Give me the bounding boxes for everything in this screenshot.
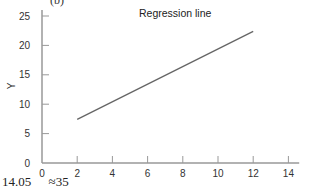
footer-value-1: 14.05	[2, 174, 31, 189]
x-tick-label: 4	[110, 168, 116, 179]
footer-values: 14.05 ≈35	[2, 174, 83, 190]
chart-title: Regression line	[139, 7, 212, 19]
x-tick-label: 6	[145, 168, 151, 179]
footer-value-2: ≈35	[49, 174, 69, 189]
panel-label: (b)	[50, 0, 64, 7]
axes: 051015202502468101214	[19, 10, 299, 179]
plot-area	[77, 31, 253, 119]
x-tick-label: 14	[283, 168, 295, 179]
x-tick-label: 12	[248, 168, 260, 179]
y-tick-label: 10	[19, 99, 31, 110]
y-tick-label: 0	[24, 158, 30, 169]
regression-chart: (b) Regression line Y 051015202502468101…	[0, 0, 310, 193]
y-tick-label: 20	[19, 40, 31, 51]
x-tick-label: 8	[180, 168, 186, 179]
y-axis-label: Y	[6, 82, 17, 89]
regression-line	[77, 31, 253, 119]
y-tick-label: 15	[19, 69, 31, 80]
x-tick-label: 10	[212, 168, 224, 179]
y-tick-label: 25	[19, 11, 31, 22]
y-tick-label: 5	[24, 128, 30, 139]
